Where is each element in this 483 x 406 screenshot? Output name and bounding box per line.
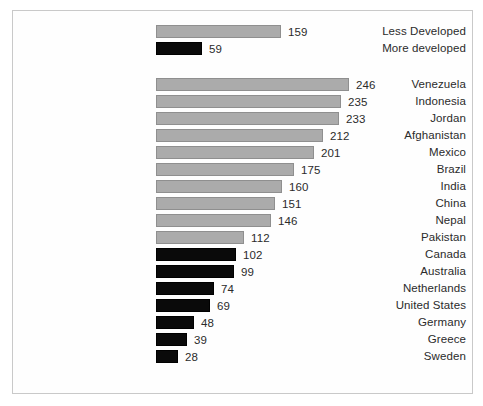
bar-value-label: 235 <box>348 95 368 109</box>
bar <box>156 163 294 176</box>
bar <box>156 112 339 125</box>
bar-track: 99 <box>156 265 466 279</box>
bar <box>156 95 341 108</box>
bar-value-label: 102 <box>243 248 263 262</box>
chart-plot-area: Less Developed159More developed59 Venezu… <box>13 11 472 393</box>
bar-row: Jordan233 <box>13 111 466 128</box>
bar-value-label: 48 <box>201 316 214 330</box>
bar-value-label: 69 <box>217 299 230 313</box>
bar-value-label: 59 <box>209 42 222 56</box>
bar <box>156 42 202 55</box>
bar-row: Brazil175 <box>13 162 466 179</box>
bar-track: 233 <box>156 112 466 126</box>
bar-track: 146 <box>156 214 466 228</box>
bar-value-label: 246 <box>356 78 376 92</box>
chart-frame: Less Developed159More developed59 Venezu… <box>12 10 473 394</box>
bar-row: Indonesia235 <box>13 94 466 111</box>
bar-value-label: 212 <box>330 129 350 143</box>
bar <box>156 214 271 227</box>
bar <box>156 282 214 295</box>
bar <box>156 231 244 244</box>
bar-row: India160 <box>13 179 466 196</box>
bar <box>156 333 187 346</box>
bar <box>156 146 314 159</box>
bar-row: Netherlands74 <box>13 281 466 298</box>
bar-row: United States69 <box>13 298 466 315</box>
bar-track: 201 <box>156 146 466 160</box>
bar-track: 151 <box>156 197 466 211</box>
bar <box>156 248 236 261</box>
bar-track: 212 <box>156 129 466 143</box>
bar <box>156 350 178 363</box>
bar-value-label: 112 <box>251 231 270 245</box>
bar-row: Canada102 <box>13 247 466 264</box>
bar-row: More developed59 <box>13 41 466 58</box>
bar-value-label: 160 <box>289 180 309 194</box>
bar-track: 175 <box>156 163 466 177</box>
bar-track: 112 <box>156 231 466 245</box>
bar-group-summary: Less Developed159More developed59 <box>13 24 466 64</box>
bar <box>156 197 275 210</box>
bar <box>156 299 210 312</box>
bar-row: Pakistan112 <box>13 230 466 247</box>
bar-value-label: 99 <box>241 265 254 279</box>
bar <box>156 78 349 91</box>
bar-track: 246 <box>156 78 466 92</box>
bar-track: 59 <box>156 42 466 56</box>
bar <box>156 129 323 142</box>
bar-value-label: 201 <box>321 146 341 160</box>
bar-value-label: 74 <box>221 282 234 296</box>
bar-row: Greece39 <box>13 332 466 349</box>
bar <box>156 265 234 278</box>
bar-value-label: 28 <box>185 350 198 364</box>
bar-track: 28 <box>156 350 466 364</box>
bar-track: 235 <box>156 95 466 109</box>
bar-row: Less Developed159 <box>13 24 466 41</box>
bar-row: Mexico201 <box>13 145 466 162</box>
bar-track: 39 <box>156 333 466 347</box>
bar-value-label: 39 <box>194 333 207 347</box>
bar-row: Venezuela246 <box>13 77 466 94</box>
bar-row: Sweden28 <box>13 349 466 366</box>
bar-track: 160 <box>156 180 466 194</box>
bar-track: 69 <box>156 299 466 313</box>
bar-row: Nepal146 <box>13 213 466 230</box>
bar-value-label: 151 <box>282 197 302 211</box>
bar <box>156 25 281 38</box>
bar-value-label: 175 <box>301 163 321 177</box>
bar-track: 159 <box>156 25 466 39</box>
bar-track: 74 <box>156 282 466 296</box>
bar-track: 48 <box>156 316 466 330</box>
bar <box>156 316 194 329</box>
bar-value-label: 159 <box>288 25 308 39</box>
bar-group-countries: Venezuela246Indonesia235Jordan233Afghani… <box>13 77 466 393</box>
bar-row: Afghanistan212 <box>13 128 466 145</box>
bar <box>156 180 282 193</box>
bar-value-label: 146 <box>278 214 298 228</box>
bar-row: Germany48 <box>13 315 466 332</box>
bar-value-label: 233 <box>346 112 366 126</box>
bar-row: Australia99 <box>13 264 466 281</box>
bar-track: 102 <box>156 248 466 262</box>
bar-row: China151 <box>13 196 466 213</box>
